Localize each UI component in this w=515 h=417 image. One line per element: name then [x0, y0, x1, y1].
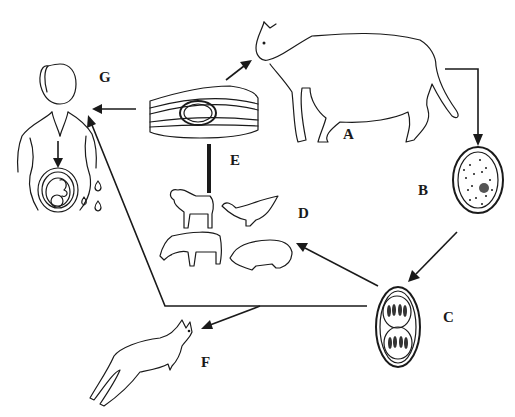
oocyst-c	[376, 287, 420, 367]
tissue-cyst-e	[92, 60, 258, 193]
oocyst-b	[453, 147, 503, 213]
label-b: B	[418, 182, 428, 199]
life-cycle-diagram: A B C D E F G	[0, 0, 515, 417]
label-f: F	[201, 354, 210, 371]
label-g: G	[99, 69, 111, 86]
cat-a	[256, 22, 458, 142]
arrow-a-to-b	[445, 69, 483, 146]
arrow-c-to-f	[201, 306, 260, 329]
kangaroo-f	[90, 320, 192, 406]
label-e: E	[230, 152, 240, 169]
label-c: C	[443, 309, 454, 326]
label-d: D	[298, 205, 309, 222]
arrow-c-to-d	[296, 243, 378, 286]
label-a: A	[343, 126, 354, 143]
human-figure-g	[18, 64, 101, 212]
intermediate-hosts-d	[160, 190, 292, 270]
arrow-b-to-c	[408, 232, 457, 282]
